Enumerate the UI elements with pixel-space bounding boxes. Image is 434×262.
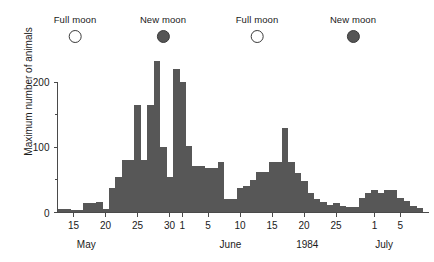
bar <box>122 160 129 212</box>
bar <box>83 203 90 212</box>
bar <box>160 147 167 212</box>
bar <box>333 203 340 212</box>
bar <box>269 162 276 213</box>
bar <box>275 162 282 213</box>
bar <box>403 201 410 213</box>
bar <box>250 180 257 213</box>
bar <box>173 69 180 213</box>
bar <box>179 82 186 213</box>
bar <box>391 190 398 212</box>
bar <box>102 209 109 213</box>
bar <box>288 162 295 213</box>
bar <box>186 146 193 213</box>
bar <box>301 181 308 212</box>
bar <box>115 177 122 213</box>
bar <box>134 105 141 213</box>
bar <box>371 190 378 212</box>
bar-series <box>58 61 423 212</box>
bar <box>294 173 301 212</box>
bar <box>262 172 269 212</box>
bar <box>359 198 366 212</box>
bar <box>141 160 148 212</box>
bar <box>230 199 237 212</box>
bar <box>58 209 65 213</box>
bar <box>314 199 321 212</box>
bar <box>192 166 199 213</box>
bar <box>282 128 289 213</box>
bar <box>307 193 314 213</box>
bar <box>109 188 116 213</box>
plot-area <box>0 0 434 262</box>
bar <box>365 193 372 213</box>
bar <box>64 209 71 213</box>
bar <box>154 61 161 212</box>
bar <box>96 202 103 212</box>
chart-figure: Full moon New moon Full moon New moon Ma… <box>0 0 434 262</box>
bar <box>218 162 225 213</box>
bar <box>384 190 391 212</box>
bar <box>320 202 327 212</box>
bar <box>237 188 244 213</box>
bar <box>256 172 263 212</box>
bar <box>147 105 154 213</box>
bar <box>224 199 231 212</box>
bar <box>166 177 173 213</box>
bar <box>339 206 346 213</box>
bar <box>410 206 417 213</box>
bar <box>416 208 423 213</box>
bar <box>346 207 353 213</box>
bar <box>205 168 212 212</box>
bar <box>211 168 218 212</box>
bar <box>352 207 359 213</box>
bar <box>327 205 334 213</box>
bar <box>90 203 97 212</box>
bar <box>243 186 250 212</box>
bar <box>198 166 205 213</box>
bar <box>378 193 385 213</box>
bar <box>128 160 135 212</box>
bar <box>397 198 404 212</box>
